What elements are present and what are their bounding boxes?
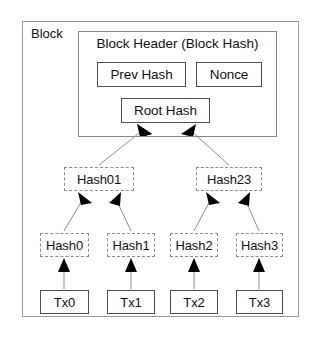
hash01-box: Hash01: [64, 167, 134, 191]
tx1-box: Tx1: [107, 290, 155, 314]
hash2-box: Hash2: [170, 233, 218, 257]
hash3-box: Hash3: [236, 233, 283, 257]
tx3-box: Tx3: [236, 290, 283, 314]
nonce-box: Nonce: [196, 62, 262, 87]
hash23-box: Hash23: [196, 167, 262, 191]
prev-hash-box: Prev Hash: [97, 62, 186, 87]
block-label: Block: [31, 26, 63, 41]
hash0-box: Hash0: [40, 233, 89, 257]
root-hash-box: Root Hash: [121, 98, 210, 123]
tx0-box: Tx0: [40, 290, 89, 314]
hash1-box: Hash1: [107, 233, 155, 257]
block-merkle-diagram: Block Block Header (Block Hash) Prev Has…: [0, 0, 313, 342]
block-header-title: Block Header (Block Hash): [78, 36, 277, 51]
tx2-box: Tx2: [170, 290, 218, 314]
